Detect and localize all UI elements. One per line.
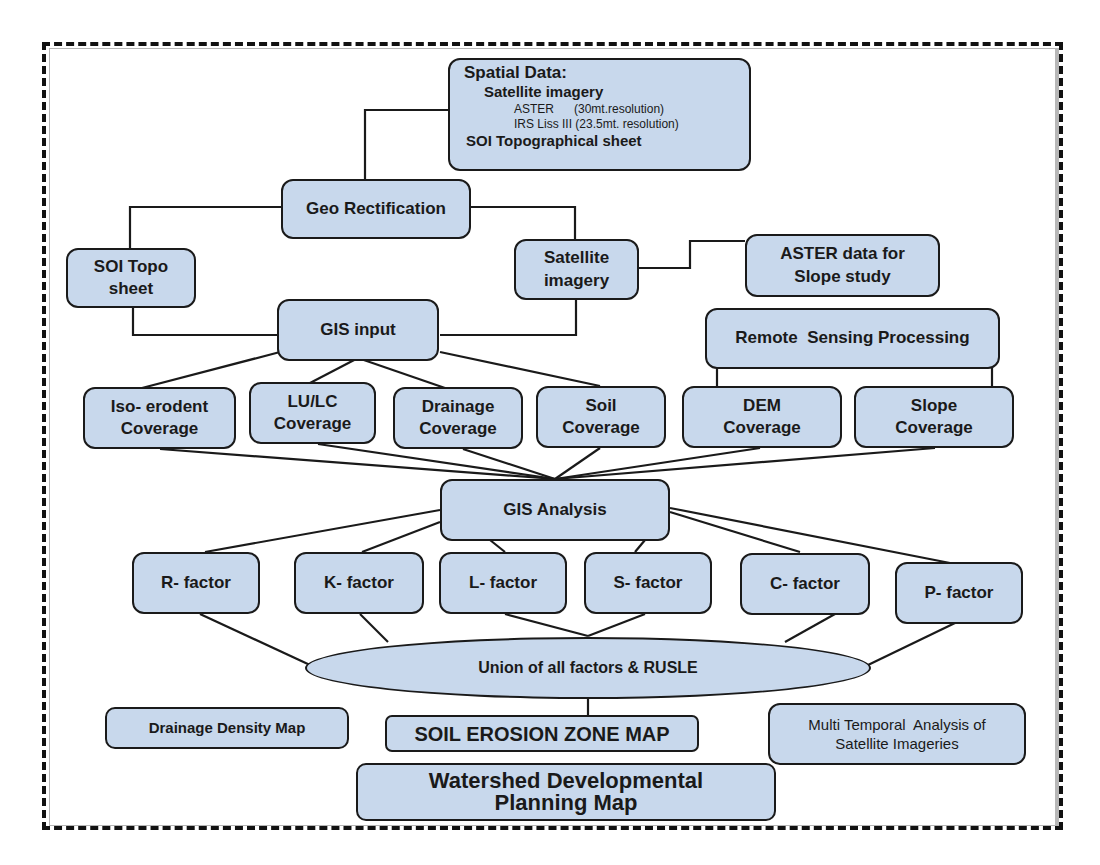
factor-label: L- factor: [469, 572, 537, 594]
l-factor-node: L- factor: [439, 552, 567, 614]
gis-analysis-node: GIS Analysis: [440, 479, 670, 541]
multi-temporal-line2: Satellite Imageries: [835, 734, 958, 754]
gis-input-node: GIS input: [277, 299, 439, 361]
soi-topo-sheet-node: SOI Topo sheet: [66, 248, 196, 308]
union-label: Union of all factors & RUSLE: [478, 659, 698, 677]
watershed-line1: Watershed Developmental: [429, 770, 703, 792]
union-rusle-ellipse: Union of all factors & RUSLE: [305, 637, 871, 699]
soi-topo-line2: sheet: [109, 278, 153, 300]
c-factor-node: C- factor: [740, 553, 870, 615]
r-factor-node: R- factor: [132, 552, 260, 614]
s-factor-node: S- factor: [584, 552, 712, 614]
k-factor-node: K- factor: [294, 552, 424, 614]
slope-coverage-node: Slope Coverage: [854, 386, 1014, 448]
coverage-line2: Coverage: [419, 418, 496, 440]
satellite-imagery-node: Satellite imagery: [514, 239, 639, 300]
aster-slope-line1: ASTER data for: [780, 243, 905, 265]
factor-label: C- factor: [770, 573, 840, 595]
factor-label: K- factor: [324, 572, 394, 594]
gis-analysis-label: GIS Analysis: [503, 499, 606, 521]
gis-input-label: GIS input: [320, 319, 396, 341]
geo-rectification-node: Geo Rectification: [281, 179, 471, 239]
multi-temporal-node: Multi Temporal Analysis of Satellite Ima…: [768, 703, 1026, 765]
soi-topo-line1: SOI Topo: [94, 256, 168, 278]
coverage-line2: Coverage: [723, 417, 800, 439]
watershed-planning-map-node: Watershed Developmental Planning Map: [356, 763, 776, 821]
p-factor-node: P- factor: [895, 562, 1023, 624]
multi-temporal-line1: Multi Temporal Analysis of: [808, 715, 985, 735]
factor-label: S- factor: [614, 572, 683, 594]
dem-coverage-node: DEM Coverage: [682, 386, 842, 448]
soil-erosion-zone-map-node: SOIL EROSION ZONE MAP: [385, 715, 699, 752]
factor-label: P- factor: [925, 582, 994, 604]
watershed-line2: Planning Map: [495, 792, 638, 814]
aster-slope-line2: Slope study: [794, 266, 890, 288]
iso-erodent-coverage-node: Iso- erodent Coverage: [83, 387, 236, 449]
spatial-data-node: Spatial Data: Satellite imagery ASTER (3…: [448, 58, 751, 171]
lulc-coverage-node: LU/LC Coverage: [249, 382, 376, 444]
drainage-coverage-node: Drainage Coverage: [393, 387, 523, 449]
spatial-data-subtitle: Satellite imagery: [464, 83, 603, 102]
coverage-line2: Coverage: [895, 417, 972, 439]
geo-rectification-label: Geo Rectification: [306, 198, 446, 220]
coverage-line1: DEM: [743, 395, 781, 417]
coverage-line1: Soil: [585, 395, 616, 417]
satellite-imagery-line1: Satellite: [544, 247, 609, 269]
spatial-data-irs: IRS Liss III (23.5mt. resolution): [464, 117, 679, 132]
spatial-data-soi: SOI Topographical sheet: [464, 132, 642, 151]
remote-sensing-node: Remote Sensing Processing: [705, 308, 1000, 369]
coverage-line1: LU/LC: [287, 391, 337, 413]
spatial-data-title: Spatial Data:: [464, 62, 567, 83]
remote-sensing-label: Remote Sensing Processing: [735, 327, 969, 349]
coverage-line1: Iso- erodent: [111, 396, 208, 418]
soil-erosion-label: SOIL EROSION ZONE MAP: [414, 721, 669, 747]
coverage-line2: Coverage: [121, 418, 198, 440]
coverage-line1: Slope: [911, 395, 957, 417]
factor-label: R- factor: [161, 572, 231, 594]
drainage-density-map-node: Drainage Density Map: [105, 707, 349, 749]
coverage-line2: Coverage: [274, 413, 351, 435]
spatial-data-aster: ASTER (30mt.resolution): [464, 102, 664, 117]
soil-coverage-node: Soil Coverage: [536, 386, 666, 448]
drainage-density-label: Drainage Density Map: [149, 718, 306, 738]
coverage-line1: Drainage: [422, 396, 495, 418]
coverage-line2: Coverage: [562, 417, 639, 439]
aster-slope-node: ASTER data for Slope study: [745, 234, 940, 297]
satellite-imagery-line2: imagery: [544, 270, 609, 292]
